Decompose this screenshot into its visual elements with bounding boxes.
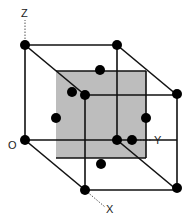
atom-corner-origin-top <box>20 40 30 50</box>
origin-label: O <box>8 139 17 151</box>
atom-corner <box>80 185 90 195</box>
atom-face-front <box>141 113 151 123</box>
atom-face-left <box>67 87 77 97</box>
atom-corner <box>20 135 30 145</box>
atom-corner <box>172 89 182 99</box>
atom-face-right <box>127 135 137 145</box>
atom-face-back <box>51 113 61 123</box>
x-axis-label: X <box>106 203 114 215</box>
atom-face-top <box>95 65 105 75</box>
y-axis-label: Y <box>154 134 162 146</box>
z-axis-label: Z <box>21 7 28 19</box>
atom-face-bottom <box>96 159 106 169</box>
atom-corner <box>112 135 122 145</box>
atom-corner <box>112 40 122 50</box>
atom-corner <box>80 90 90 100</box>
fcc-cube-diagram: Z Y X O <box>0 0 192 223</box>
atom-corner <box>172 183 182 193</box>
